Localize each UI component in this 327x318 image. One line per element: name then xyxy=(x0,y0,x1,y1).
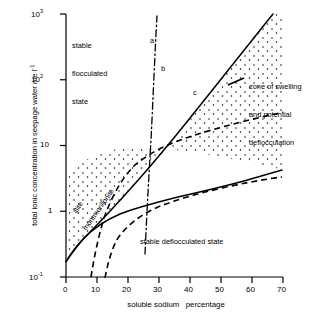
annotation-stable-flocculated-state: stable flocculated state xyxy=(72,22,107,125)
x-axis-ticks xyxy=(66,277,283,283)
y-tick-label-0-1: 10-1 xyxy=(29,271,43,282)
annotation-line-1: zone of swelling xyxy=(249,82,302,91)
curve-label-c: c xyxy=(193,88,197,97)
y-tick-label-1000: 103 xyxy=(31,8,43,19)
y-axis-ticks xyxy=(60,14,66,277)
y-axis-title: total ionic concentration in seepage wat… xyxy=(29,25,40,265)
y-tick-label-1: 1 xyxy=(48,206,52,215)
annotation-stable-deflocculated-state: stable deflocculated state xyxy=(140,237,223,246)
x-tick-label-40: 40 xyxy=(184,285,193,294)
x-axis-title: soluble sodium percentage xyxy=(66,300,286,309)
annotation-line-2: flocculated xyxy=(72,69,107,78)
x-tick-label-70: 70 xyxy=(277,285,286,294)
x-tick-label-50: 50 xyxy=(215,285,224,294)
x-tick-label-30: 30 xyxy=(153,285,162,294)
curve-label-b: b xyxy=(161,64,165,73)
chart-root: 103 102 10 1 10-1 0 10 20 30 40 50 60 70… xyxy=(0,0,327,318)
curve-label-a: a xyxy=(150,36,154,45)
annotation-line-3: state xyxy=(72,97,107,106)
x-tick-label-60: 60 xyxy=(246,285,255,294)
curve-montmorillonite xyxy=(105,177,282,278)
annotation-line-1: stable xyxy=(72,41,107,50)
annotation-line-2: and potential xyxy=(249,110,302,119)
annotation-line-3: deflocculation xyxy=(249,138,302,147)
curve-a-dash-dot xyxy=(145,16,157,254)
x-tick-label-0: 0 xyxy=(63,285,67,294)
y-tick-label-10: 10 xyxy=(40,140,49,149)
annotation-zone-of-swelling: zone of swelling and potential defloccul… xyxy=(249,63,302,166)
x-tick-label-10: 10 xyxy=(91,285,100,294)
x-tick-label-20: 20 xyxy=(122,285,131,294)
